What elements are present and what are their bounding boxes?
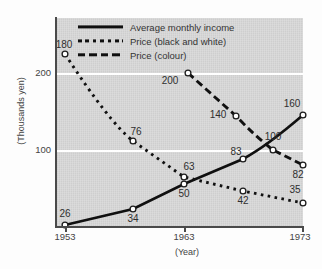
legend-item-average-monthly-income: Average monthly income — [78, 20, 234, 34]
legend-swatch-solid-icon — [78, 22, 123, 33]
data-label-bw-1973: 35 — [282, 184, 308, 195]
data-label-bw-1968: 42 — [230, 195, 256, 206]
x-axis-title: (Year) — [157, 247, 217, 257]
y-axis-title: (Thousands yen) — [16, 66, 26, 156]
data-label-bw-1963: 63 — [176, 161, 202, 172]
x-axis-line — [55, 226, 304, 228]
y-axis-line — [55, 17, 57, 228]
legend-swatch-dotted-icon — [78, 36, 123, 47]
data-label-income-1963: 50 — [171, 188, 197, 199]
legend-label-price-black-and-white: Price (black and white) — [130, 36, 226, 47]
legend-item-price-black-and-white: Price (black and white) — [78, 34, 234, 48]
data-label-colour-1966: 140 — [205, 109, 231, 120]
chart-figure: 26 34 50 83 160 180 76 63 42 35 200 140 … — [0, 0, 322, 269]
data-label-colour-1962: 200 — [157, 75, 183, 86]
x-tick-label-1953: 1953 — [42, 231, 88, 242]
legend-label-price-colour: Price (colour) — [130, 50, 187, 61]
chart-legend: Average monthly income Price (black and … — [78, 20, 234, 62]
data-label-income-1973: 160 — [279, 98, 305, 109]
legend-label-average-monthly-income: Average monthly income — [130, 22, 234, 33]
x-tick-label-1963: 1963 — [161, 231, 207, 242]
data-label-colour-1973: 82 — [285, 169, 311, 180]
data-label-bw-1958: 76 — [123, 126, 149, 137]
data-label-income-1968: 83 — [223, 146, 249, 157]
data-label-income-1958: 34 — [120, 213, 146, 224]
legend-item-price-colour: Price (colour) — [78, 48, 234, 62]
plot-area: 26 34 50 83 160 180 76 63 42 35 200 140 … — [57, 18, 303, 227]
x-tick-label-1973: 1973 — [277, 231, 322, 242]
legend-swatch-dashed-icon — [78, 50, 123, 61]
data-label-colour-1968: 100 — [260, 131, 286, 142]
